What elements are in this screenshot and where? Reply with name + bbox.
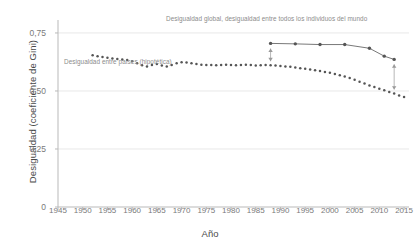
data-point-between-countries xyxy=(215,64,218,67)
data-point-between-countries xyxy=(185,61,188,64)
gap-arrow-left xyxy=(268,49,272,62)
annotation-global-inequality: Desigualdad global, desigualdad entre to… xyxy=(166,15,367,22)
gap-arrow-right xyxy=(392,64,396,89)
data-point-between-countries xyxy=(166,65,169,68)
data-point-global xyxy=(392,58,395,61)
data-point-between-countries xyxy=(200,64,203,67)
data-point-between-countries xyxy=(180,61,183,64)
data-point-between-countries xyxy=(294,66,297,69)
data-point-between-countries xyxy=(190,62,193,65)
data-point-between-countries xyxy=(235,64,238,67)
data-point-between-countries xyxy=(398,94,401,97)
data-point-between-countries xyxy=(146,65,149,68)
arrow-head-up xyxy=(268,49,272,52)
data-point-between-countries xyxy=(319,70,322,73)
data-point-between-countries xyxy=(314,69,317,72)
data-point-between-countries xyxy=(230,64,233,67)
data-point-between-countries xyxy=(269,64,272,67)
data-point-between-countries xyxy=(378,87,381,90)
data-point-between-countries xyxy=(274,64,277,67)
data-point-global xyxy=(368,47,371,50)
data-point-between-countries xyxy=(284,65,287,68)
data-point-between-countries xyxy=(279,65,282,68)
data-point-between-countries xyxy=(210,64,213,67)
data-point-between-countries xyxy=(368,84,371,87)
data-point-between-countries xyxy=(250,64,253,67)
chart-figure: Desigualdad (coeficiente de Gini) Año 00… xyxy=(0,0,420,249)
data-point-between-countries xyxy=(388,91,391,94)
data-point-between-countries xyxy=(299,67,302,70)
data-point-between-countries xyxy=(240,64,243,67)
series-line-global xyxy=(271,43,395,59)
data-point-between-countries xyxy=(358,80,361,83)
data-point-between-countries xyxy=(175,62,178,65)
data-point-between-countries xyxy=(91,54,94,57)
arrow-head-up xyxy=(392,64,396,67)
data-point-global xyxy=(318,43,321,46)
data-point-between-countries xyxy=(393,92,396,95)
data-point-between-countries xyxy=(289,66,292,69)
data-point-between-countries xyxy=(245,64,248,67)
x-axis-ticks: 1945195019551960196519701975198019851990… xyxy=(0,206,420,222)
data-point-global xyxy=(294,42,297,45)
data-point-between-countries xyxy=(343,75,346,78)
data-point-global xyxy=(383,54,386,57)
data-point-between-countries xyxy=(348,77,351,80)
data-point-between-countries xyxy=(304,67,307,70)
data-point-between-countries xyxy=(334,73,337,76)
data-point-between-countries xyxy=(220,64,223,67)
data-point-between-countries xyxy=(195,63,198,66)
data-point-between-countries xyxy=(339,74,342,77)
annotation-between-countries: Desigualdad entre países (hipotética) xyxy=(64,58,172,65)
data-point-between-countries xyxy=(363,82,366,85)
y-tick-label: 0,50 xyxy=(12,86,46,96)
y-tick-label: 0,75 xyxy=(12,28,46,38)
y-tick-label: 0,25 xyxy=(12,144,46,154)
data-point-between-countries xyxy=(309,68,312,71)
data-point-between-countries xyxy=(264,64,267,67)
arrow-head-down xyxy=(392,86,396,89)
data-point-between-countries xyxy=(353,79,356,82)
arrow-head-down xyxy=(268,58,272,61)
data-point-between-countries xyxy=(383,89,386,92)
data-point-between-countries xyxy=(324,71,327,74)
data-point-between-countries xyxy=(255,64,258,67)
data-point-between-countries xyxy=(259,64,262,67)
data-point-between-countries xyxy=(373,86,376,89)
data-point-global xyxy=(343,43,346,46)
data-point-between-countries xyxy=(225,64,228,67)
x-tick-label: 2015 xyxy=(389,206,419,215)
x-axis-title: Año xyxy=(0,228,420,239)
data-point-global xyxy=(269,42,272,45)
data-point-between-countries xyxy=(205,64,208,67)
data-point-between-countries xyxy=(329,72,332,75)
data-point-between-countries xyxy=(403,96,406,99)
